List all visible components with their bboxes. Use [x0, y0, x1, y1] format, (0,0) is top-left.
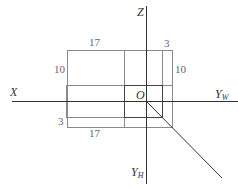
yh-axis-label: YH: [131, 166, 143, 180]
diagram-lines: [0, 0, 238, 189]
origin-label: O: [136, 89, 145, 101]
projection-diagram: Z X O YW YH 17 3 10 10 3 17: [0, 0, 238, 189]
dim-bottom-left: 3: [58, 116, 64, 127]
diagonal-45: [147, 102, 223, 179]
z-axis-label: Z: [137, 6, 144, 18]
outer-rect: [68, 51, 173, 128]
dim-left-height: 10: [54, 64, 65, 75]
dim-top-width: 17: [89, 37, 100, 48]
yw-axis-label: YW: [215, 88, 228, 102]
dim-right-height: 10: [175, 64, 186, 75]
dim-top-right: 3: [164, 38, 170, 49]
x-axis-label: X: [10, 86, 17, 98]
dim-bottom-width: 17: [89, 128, 100, 139]
